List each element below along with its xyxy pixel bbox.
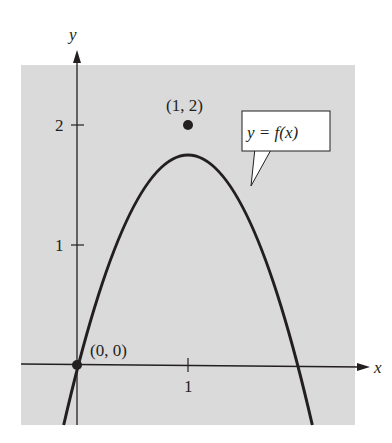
callout-label: y = f(x) [245,123,298,142]
chart: y = f(x) y x 1 2 1 (0, 0) (1, 2) [0,0,392,443]
point-max [183,120,193,130]
point-origin [72,360,82,370]
y-axis-arrow-icon [73,50,81,63]
x-axis-label: x [373,358,382,377]
y-axis-label: y [67,25,77,44]
point-origin-label: (0, 0) [90,341,127,360]
x-tick-label-1: 1 [184,377,193,396]
point-max-label: (1, 2) [166,96,203,115]
y-tick-label-1: 1 [55,236,64,255]
x-axis-arrow-icon [357,363,370,371]
y-tick-label-2: 2 [55,116,64,135]
